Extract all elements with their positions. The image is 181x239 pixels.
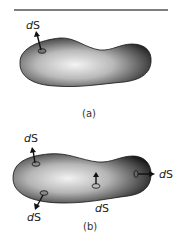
arrowhead-icon [30,147,36,153]
ds-label: dS [95,202,109,215]
ds-label: dS [159,168,173,181]
caption-a: (a) [82,108,96,119]
surface-element-diagram: dS (a) dS dS dS dS (b) [0,0,181,239]
caption-b: (b) [83,221,97,232]
arrowhead-icon [149,171,155,177]
ds-label: dS [24,132,38,145]
arrowhead-icon [34,203,40,210]
surface-element-patch [134,171,138,178]
panel-a: dS (a) [20,19,151,119]
panel-b: dS dS dS dS (b) [13,132,173,232]
ds-label: dS [26,19,40,32]
ds-label: dS [27,211,41,224]
surface-element-patch [40,191,48,196]
surface-element-patch [38,49,46,54]
surface-element-patch [32,162,40,167]
closed-surface-b [13,154,151,203]
surface-element-patch [92,184,100,189]
